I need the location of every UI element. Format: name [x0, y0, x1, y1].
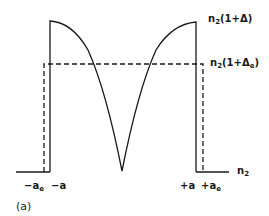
- peak-index-label: n2(1+Δ): [208, 14, 252, 26]
- equivalent-step-profile: [44, 64, 203, 172]
- pos-ae-tick-label: +ae: [201, 181, 221, 193]
- cladding-index-label: n2: [237, 166, 249, 178]
- neg-ae-tick-label: −ae: [24, 181, 44, 193]
- figure-caption: (a): [16, 201, 31, 212]
- pos-a-tick-label: +a: [180, 181, 195, 191]
- equivalent-index-label: n2(1+Δe): [210, 58, 259, 70]
- actual-index-profile: [50, 21, 196, 172]
- neg-a-tick-label: −a: [51, 181, 66, 191]
